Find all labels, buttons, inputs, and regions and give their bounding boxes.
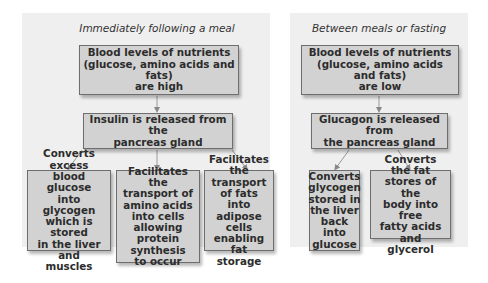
right-panel-title: Between meals or fasting bbox=[290, 22, 468, 34]
glucagon-effect-fat-stores: Converts the fatstores of thebody into f… bbox=[370, 170, 451, 239]
insulin-effect-amino-acids: Facilitates thetransport ofamino acidsin… bbox=[116, 170, 200, 263]
glucagon-release-box: Glucagon is released fromthe pancreas gl… bbox=[311, 113, 448, 149]
glucagon-effect-glycogen: Convertsglycogenstored inthe liverback i… bbox=[309, 170, 360, 251]
left-panel-title: Immediately following a meal bbox=[22, 22, 292, 34]
left-nutrient-levels-box: Blood levels of nutrients(glucose, amino… bbox=[79, 45, 239, 95]
insulin-effect-fat-storage: Facilitatesthe transportof fats intoadip… bbox=[204, 170, 274, 251]
insulin-effect-glycogen: Converts excessblood glucoseinto glycoge… bbox=[27, 170, 111, 251]
right-nutrient-levels-box: Blood levels of nutrients(glucose, amino… bbox=[301, 45, 459, 95]
insulin-release-box: Insulin is released from thepancreas gla… bbox=[83, 113, 233, 149]
